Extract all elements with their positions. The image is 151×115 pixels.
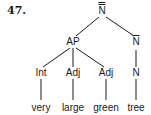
node-n: N (132, 68, 139, 78)
syntax-tree-figure: 47. N AP N Int Adj Adj N very large gree… (0, 0, 151, 115)
node-adj-1: Adj (66, 68, 80, 78)
node-int: Int (35, 68, 46, 78)
node-adj-2: Adj (99, 68, 113, 78)
word-tree: tree (127, 103, 144, 113)
tree-edges (0, 0, 151, 115)
node-ap: AP (66, 37, 79, 47)
word-very: very (32, 103, 51, 113)
word-green: green (93, 103, 119, 113)
bar-mark (98, 2, 105, 3)
word-large: large (62, 103, 84, 113)
node-n-double-bar: N (98, 2, 105, 16)
node-n-bar: N (132, 35, 139, 47)
example-number: 47. (7, 4, 26, 17)
